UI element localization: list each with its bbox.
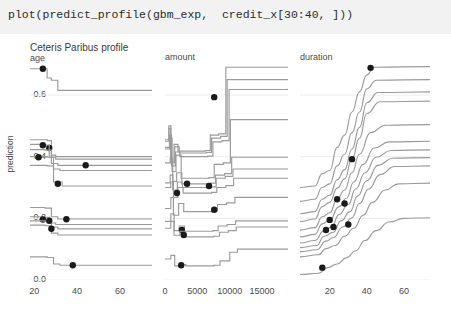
observation-point[interactable] (55, 181, 61, 187)
x-tick-label: 60 (399, 286, 409, 296)
panel-amount[interactable] (165, 58, 288, 280)
observation-point[interactable] (345, 221, 351, 227)
observation-point[interactable] (70, 262, 76, 268)
x-tick-label: 0 (162, 286, 167, 296)
observation-point[interactable] (334, 196, 340, 202)
x-tick-label: 10000 (217, 286, 242, 296)
ceteris-paribus-curve (165, 67, 288, 162)
ceteris-paribus-curve (30, 165, 152, 186)
observation-point[interactable] (82, 162, 88, 168)
ceteris-paribus-curve (300, 141, 430, 237)
ceteris-paribus-curve (165, 197, 288, 216)
ceteris-paribus-curve (30, 257, 152, 266)
ceteris-paribus-curve (165, 89, 288, 166)
x-tick-label: 20 (325, 286, 335, 296)
observation-point[interactable] (341, 200, 347, 206)
ceteris-paribus-curve (165, 157, 288, 184)
x-tick-label: 60 (115, 286, 125, 296)
code-cell-text[interactable]: plot(predict_profile(gbm_exp, credit_x[3… (8, 8, 353, 21)
y-axis-label: prediction (5, 124, 15, 184)
observation-point[interactable] (319, 264, 325, 270)
x-tick-label: 20 (29, 286, 39, 296)
observation-point[interactable] (184, 181, 190, 187)
observation-point[interactable] (174, 190, 180, 196)
ceteris-paribus-curve (300, 67, 430, 188)
observation-point[interactable] (178, 262, 184, 268)
ceteris-paribus-curve (30, 69, 152, 91)
code-cell: plot(predict_profile(gbm_exp, credit_x[3… (0, 0, 451, 34)
observation-point[interactable] (330, 224, 336, 230)
panel-duration[interactable] (300, 58, 430, 280)
observation-point[interactable] (206, 183, 212, 189)
x-tick-label: 15000 (250, 286, 275, 296)
observation-point[interactable] (40, 142, 46, 148)
observation-point[interactable] (349, 156, 355, 162)
observation-point[interactable] (181, 232, 187, 238)
bottom-spacer (0, 305, 451, 313)
observation-point[interactable] (323, 227, 329, 233)
ceteris-paribus-curve (165, 178, 288, 198)
ceteris-paribus-curve (30, 225, 152, 235)
observation-point[interactable] (327, 217, 333, 223)
observation-point[interactable] (35, 154, 41, 160)
observation-point[interactable] (40, 66, 46, 72)
figure-title: Ceteris Paribus profile (30, 42, 128, 53)
ceteris-paribus-figure: Ceteris Paribus profile prediction 0.00.… (0, 34, 451, 313)
x-tick-label: 40 (72, 286, 82, 296)
observation-point[interactable] (211, 207, 217, 213)
observation-point[interactable] (48, 226, 54, 232)
ceteris-paribus-curve (165, 168, 288, 190)
observation-point[interactable] (46, 218, 52, 224)
ceteris-paribus-curve (300, 92, 430, 214)
ceteris-paribus-curve (165, 79, 288, 163)
observation-point[interactable] (211, 94, 217, 100)
observation-point[interactable] (367, 65, 373, 71)
x-tick-label: 5000 (187, 286, 207, 296)
observation-point[interactable] (63, 216, 69, 222)
x-tick-label: 40 (362, 286, 372, 296)
panel-age[interactable] (30, 58, 152, 280)
